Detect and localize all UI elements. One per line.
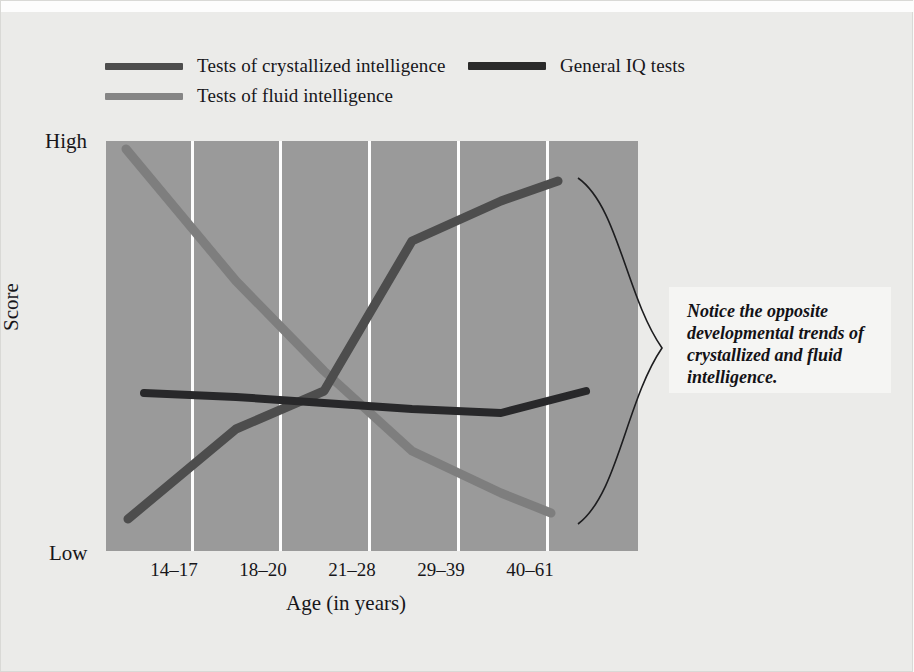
series-lines-svg [106, 141, 638, 551]
x-tick-29-39: 29–39 [396, 559, 486, 581]
line-general-iq [144, 391, 586, 413]
x-tick-14-17: 14–17 [129, 559, 219, 581]
y-axis-low-label: Low [49, 541, 88, 566]
legend-label-crystallized: Tests of crystallized intelligence [197, 55, 445, 77]
callout-box: Notice the opposite developmental trends… [669, 287, 891, 393]
x-tick-40-61: 40–61 [485, 559, 575, 581]
legend-item-crystallized: Tests of crystallized intelligence [105, 55, 445, 77]
legend-item-fluid: Tests of fluid intelligence [105, 85, 393, 107]
fluid-swatch-icon [105, 93, 183, 100]
x-tick-18-20: 18–20 [218, 559, 308, 581]
plot-area [106, 141, 638, 551]
legend-item-general-iq: General IQ tests [468, 55, 685, 77]
chart-legend: Tests of crystallized intelligence Tests… [105, 51, 805, 113]
crystallized-swatch-icon [105, 63, 183, 70]
legend-label-general-iq: General IQ tests [560, 55, 685, 77]
general-iq-swatch-icon [468, 62, 546, 70]
y-axis-high-label: High [45, 129, 87, 154]
y-axis-title: Score [0, 283, 24, 331]
x-tick-21-28: 21–28 [307, 559, 397, 581]
legend-label-fluid: Tests of fluid intelligence [197, 85, 393, 107]
callout-brace-icon [576, 176, 666, 526]
top-edge-strip [1, 1, 914, 12]
x-axis-title: Age (in years) [286, 591, 406, 616]
callout-text: Notice the opposite developmental trends… [687, 301, 875, 389]
